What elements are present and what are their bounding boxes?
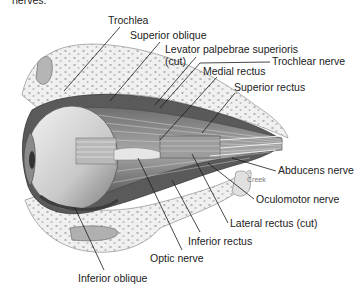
label-optic-nerve: Optic nerve: [150, 253, 204, 264]
optic-nerve-shape: [114, 148, 160, 160]
pupil: [29, 151, 35, 169]
label-lateral-rectus: Lateral rectus (cut): [230, 218, 318, 229]
label-trochlea: Trochlea: [108, 15, 148, 26]
label-superior-oblique: Superior oblique: [130, 30, 206, 41]
label-levator-palpebrae: Levator palpebrae superioris: [165, 44, 298, 55]
label-inferior-rectus: Inferior rectus: [188, 236, 252, 247]
label-trochlear-nerve: Trochlear nerve: [272, 56, 345, 67]
sinus-cavity: [36, 57, 52, 85]
lateral-rectus-block: [160, 136, 220, 158]
label-medial-rectus: Medial rectus: [203, 66, 265, 77]
label-superior-rectus: Superior rectus: [234, 82, 305, 93]
lower-sinus-cavity: [70, 226, 118, 241]
eye-anatomy-figure: nerves.: [0, 0, 362, 299]
label-abducens-nerve: Abducens nerve: [278, 165, 354, 176]
label-creek: Creek: [247, 174, 266, 185]
label-inferior-oblique: Inferior oblique: [78, 273, 147, 284]
label-levator-cut: (cut): [165, 56, 186, 67]
label-oculomotor-nerve: Oculomotor nerve: [256, 194, 339, 205]
